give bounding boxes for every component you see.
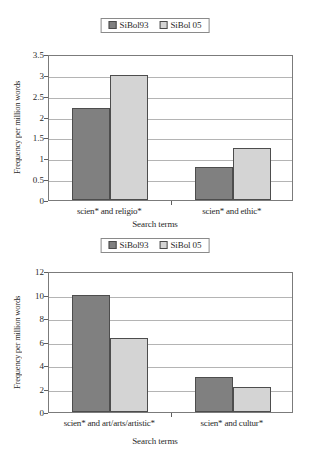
legend-entry-sibol05: SiBol 05 xyxy=(159,240,201,250)
chart-legend: SiBol93 SiBol 05 xyxy=(101,238,210,253)
y-tick-mark xyxy=(44,296,48,297)
legend-label: SiBol 05 xyxy=(170,20,201,30)
x-tick-label: scien* and religio* xyxy=(77,206,142,216)
legend-entry-sibol93: SiBol93 xyxy=(109,240,149,250)
x-tick-label: scien* and art/arts/artistic* xyxy=(64,418,155,428)
gridline xyxy=(49,98,292,99)
legend-swatch-icon xyxy=(109,21,117,29)
y-tick-mark xyxy=(44,118,48,119)
bar xyxy=(233,148,271,200)
y-tick-mark xyxy=(44,159,48,160)
legend-label: SiBol 05 xyxy=(170,240,201,250)
legend-swatch-icon xyxy=(109,241,117,249)
legend-entry-sibol93: SiBol93 xyxy=(109,20,149,30)
y-tick-mark xyxy=(44,272,48,273)
plot-area xyxy=(48,55,293,201)
y-axis-ticks: 024681012 xyxy=(18,272,44,413)
y-tick-label: 1.5 xyxy=(33,134,44,143)
plot-area xyxy=(48,272,293,413)
legend-label: SiBol93 xyxy=(120,240,149,250)
y-tick-mark xyxy=(44,413,48,414)
legend-swatch-icon xyxy=(159,21,167,29)
y-tick-mark xyxy=(44,390,48,391)
y-tick-label: 12 xyxy=(35,268,44,277)
bar xyxy=(233,387,271,412)
x-tick-mark xyxy=(171,413,172,417)
y-tick-mark xyxy=(44,76,48,77)
legend-label: SiBol93 xyxy=(120,20,149,30)
y-tick-label: 2.5 xyxy=(33,92,44,101)
legend-swatch-icon xyxy=(159,241,167,249)
bar xyxy=(195,377,233,412)
y-tick-mark xyxy=(44,343,48,344)
y-tick-mark xyxy=(44,366,48,367)
x-tick-label: scien* and ethic* xyxy=(202,206,261,216)
bar xyxy=(72,295,110,413)
y-tick-mark xyxy=(44,180,48,181)
legend-entry-sibol05: SiBol 05 xyxy=(159,20,201,30)
x-tick-mark xyxy=(171,201,172,205)
x-axis-title: Search terms xyxy=(0,219,310,229)
y-tick-mark xyxy=(44,138,48,139)
bar xyxy=(110,338,148,412)
bar xyxy=(110,75,148,200)
y-tick-label: 10 xyxy=(35,291,44,300)
y-tick-mark xyxy=(44,97,48,98)
y-tick-label: 3.5 xyxy=(33,51,44,60)
bar xyxy=(195,167,233,200)
y-axis-ticks: 00.511.522.533.5 xyxy=(18,55,44,201)
chart-legend: SiBol93 SiBol 05 xyxy=(101,18,210,33)
y-tick-mark xyxy=(44,55,48,56)
gridline xyxy=(49,77,292,78)
y-tick-label: 0.5 xyxy=(33,176,44,185)
x-tick-label: scien* and cultur* xyxy=(201,418,263,428)
y-tick-mark xyxy=(44,201,48,202)
x-axis-title: Search terms xyxy=(0,436,310,446)
bar xyxy=(72,108,110,200)
y-tick-mark xyxy=(44,319,48,320)
